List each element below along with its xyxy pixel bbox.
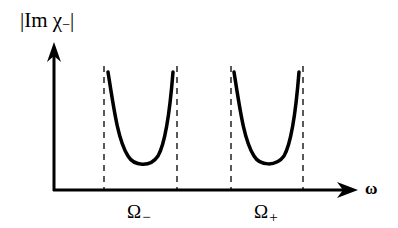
- resonance-symbol: Ω: [127, 201, 141, 222]
- curve-omega-minus: [108, 72, 173, 164]
- curve-omega-plus: [234, 72, 299, 164]
- y-label-subscript: −: [62, 17, 70, 32]
- y-label-prefix: |Im: [20, 8, 53, 32]
- x-axis-label: ω: [365, 180, 377, 197]
- resonance-label-plus: Ω+: [254, 202, 278, 221]
- resonance-symbol: Ω: [254, 201, 268, 222]
- y-label-symbol: χ: [53, 8, 62, 32]
- y-label-suffix: |: [70, 8, 74, 32]
- resonance-label-minus: Ω−: [127, 202, 151, 221]
- resonance-subscript: −: [142, 209, 150, 225]
- y-axis-label: |Im χ−|: [20, 10, 74, 31]
- resonance-subscript: +: [269, 209, 277, 225]
- diagram-canvas: [0, 0, 398, 228]
